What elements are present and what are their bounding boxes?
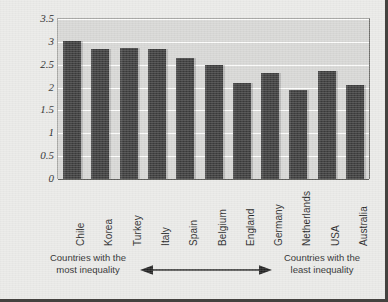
y-axis-tick-label: 1.5 — [18, 103, 54, 115]
bar — [318, 71, 336, 179]
bar — [91, 49, 109, 179]
bar — [148, 49, 166, 179]
x-axis-category-label: Spain — [188, 220, 199, 246]
double-headed-arrow-icon — [140, 263, 272, 277]
bar — [205, 65, 223, 179]
y-axis-tick-label: 2 — [18, 81, 54, 93]
y-axis-tick-label: 0 — [18, 172, 54, 184]
x-axis-category-label: Turkey — [132, 215, 143, 246]
bar-series — [58, 19, 369, 179]
y-axis-tick-label: 1 — [18, 126, 54, 138]
x-axis-category-label: Chile — [75, 223, 86, 246]
bar — [176, 58, 194, 179]
x-axis-category-label: Australia — [358, 206, 369, 246]
y-axis-tick-label: 2.5 — [18, 58, 54, 70]
bar — [63, 41, 81, 179]
y-axis-tick-label: 3 — [18, 35, 54, 47]
y-axis-tick-label: 3.5 — [18, 12, 54, 24]
y-axis-tick-labels: 00.511.522.533.5 — [18, 0, 54, 190]
x-axis-category-label: Belgium — [217, 209, 228, 246]
bar — [289, 90, 307, 179]
bar — [346, 85, 364, 179]
bar — [233, 83, 251, 179]
y-axis-tick-label: 0.5 — [18, 149, 54, 161]
bar — [261, 73, 279, 180]
x-axis-category-labels: ChileKoreaTurkeyItalySpainBelgiumEngland… — [57, 180, 368, 248]
x-axis-category-label: Netherlands — [301, 191, 312, 246]
chart-figure: Hostile sexism scores 00.511.522.533.5 C… — [0, 0, 388, 302]
x-axis-category-label: Germany — [273, 204, 284, 246]
annotation-most-inequality: Countries with the most inequality — [28, 252, 148, 275]
annotation-least-inequality: Countries with the least inequality — [262, 252, 382, 275]
x-axis-category-label: England — [245, 209, 256, 246]
x-axis-category-label: USA — [330, 225, 341, 246]
x-axis-category-label: Korea — [103, 219, 114, 246]
x-axis-category-label: Italy — [160, 227, 171, 246]
plot-area — [57, 18, 370, 179]
bar — [120, 48, 138, 179]
inequality-annotation: Countries with the most inequality Count… — [0, 252, 382, 296]
